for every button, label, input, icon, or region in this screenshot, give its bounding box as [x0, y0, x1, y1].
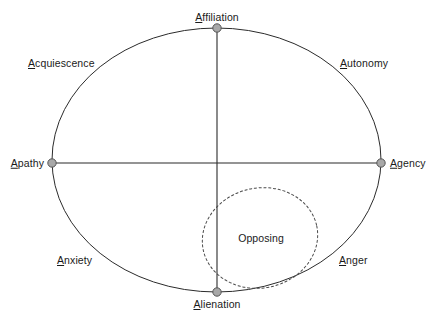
label-autonomy-rest: utonomy — [347, 57, 388, 69]
label-acquiescence-rest: cquiescence — [35, 57, 94, 69]
node-apathy[interactable] — [48, 159, 56, 167]
label-agency: Agency — [390, 158, 426, 169]
diagram-vector-layer — [0, 0, 437, 323]
label-anger-rest: nger — [346, 254, 367, 266]
label-anger: Anger — [339, 255, 368, 266]
node-alienation[interactable] — [213, 288, 221, 296]
node-affiliation[interactable] — [213, 24, 221, 32]
label-anxiety-rest: nxiety — [64, 254, 92, 266]
label-agency-rest: gency — [397, 157, 426, 169]
diagram-canvas: Affiliation Agency Alienation Apathy Acq… — [0, 0, 437, 323]
label-alienation: Alienation — [193, 299, 240, 310]
label-opposing: Opposing — [238, 233, 284, 244]
label-anxiety: Anxiety — [57, 255, 92, 266]
label-alienation-rest: lienation — [201, 298, 241, 310]
label-affiliation: Affiliation — [195, 12, 239, 23]
label-affiliation-rest: ffiliation — [202, 11, 238, 23]
label-apathy: Apathy — [11, 158, 44, 169]
node-agency[interactable] — [377, 159, 385, 167]
label-acquiescence: Acquiescence — [28, 58, 95, 69]
label-autonomy: Autonomy — [340, 58, 388, 69]
label-apathy-rest: pathy — [18, 157, 44, 169]
